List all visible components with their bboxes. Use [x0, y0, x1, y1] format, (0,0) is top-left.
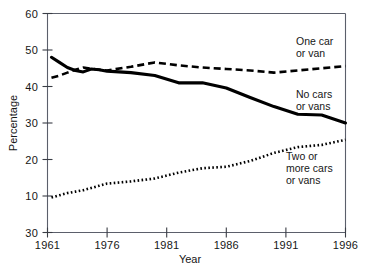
annotation-two-or-more-line1: Two or — [286, 150, 318, 162]
x-axis-ticks: 1961 1976 1981 1986 1991 1996 — [35, 228, 358, 252]
chart-figure: 60 50 40 30 20 10 30 1961 1976 1981 1986… — [0, 0, 373, 266]
y-tick-label-5: 10 — [25, 190, 38, 202]
y-tick-label-2: 40 — [25, 81, 38, 93]
series-annotations: One car or van No cars or vans Two or mo… — [286, 35, 334, 186]
annotation-one-car-line2: or van — [296, 47, 325, 59]
y-tick-label-1: 50 — [25, 44, 38, 56]
x-tick-label-2: 1981 — [154, 239, 179, 251]
y-tick-label-0: 60 — [25, 8, 38, 20]
annotation-two-or-more-line3: or vans — [286, 174, 320, 186]
y-axis-ticks: 60 50 40 30 20 10 30 — [25, 8, 52, 239]
x-tick-label-5: 1996 — [333, 239, 358, 251]
y-tick-label-6: 30 — [25, 227, 38, 239]
x-tick-label-4: 1991 — [273, 239, 298, 251]
x-axis-title: Year — [179, 253, 202, 265]
x-tick-label-0: 1961 — [35, 239, 60, 251]
y-tick-label-4: 20 — [25, 154, 38, 166]
y-tick-label-3: 30 — [25, 117, 38, 129]
annotation-no-cars-line1: No cars — [296, 88, 332, 100]
x-tick-label-3: 1986 — [214, 239, 239, 251]
series-line-one-car-or-van — [51, 62, 345, 77]
annotation-one-car-line1: One car — [296, 35, 334, 47]
car-availability-line-chart: 60 50 40 30 20 10 30 1961 1976 1981 1986… — [0, 0, 373, 266]
y-axis-title: Percentage — [7, 95, 19, 151]
annotation-two-or-more-line2: more cars — [286, 162, 333, 174]
annotation-no-cars-line2: or vans — [296, 100, 330, 112]
x-tick-label-1: 1976 — [94, 239, 119, 251]
